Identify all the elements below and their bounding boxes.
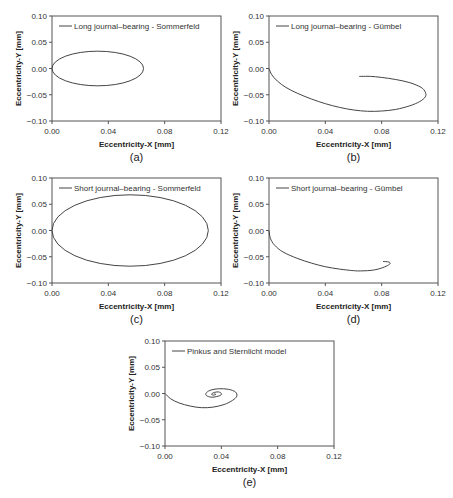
x-axis-label: Eccentricity-X [mm]: [99, 302, 174, 311]
y-tick-label: 0.00: [248, 227, 264, 236]
panel-caption: (c): [130, 313, 143, 325]
y-tick-label: 0.05: [248, 38, 264, 47]
y-tick-label: 0.05: [248, 200, 264, 209]
x-axis-label: Eccentricity-X [mm]: [316, 302, 391, 311]
y-tick-label: 0.00: [248, 65, 264, 74]
chart-svg: 0.100.050.00−0.05−0.100.000.040.080.12Ec…: [0, 0, 236, 165]
x-tick-label: 0.08: [157, 127, 173, 136]
y-tick-label: 0.10: [144, 337, 160, 346]
svg-text:Pinkus and Sternlicht model: Pinkus and Sternlicht model: [187, 347, 286, 356]
plot-area: [52, 16, 221, 121]
y-tick-label: 0.10: [248, 12, 264, 21]
x-tick-label: 0.08: [374, 127, 390, 136]
data-series-line: [52, 195, 208, 266]
y-tick-label: 0.05: [31, 200, 47, 209]
x-tick-label: 0.00: [261, 127, 277, 136]
x-tick-label: 0.12: [430, 289, 446, 298]
x-tick-label: 0.04: [214, 452, 230, 461]
y-tick-label: −0.05: [244, 91, 265, 100]
chart-panel-c: 0.100.050.00−0.05−0.100.000.040.080.12Ec…: [0, 162, 236, 331]
plot-area: [52, 178, 221, 283]
x-axis-label: Eccentricity-X [mm]: [316, 140, 391, 149]
svg-text:Long journal–bearing - Gümbel: Long journal–bearing - Gümbel: [291, 22, 402, 31]
x-tick-label: 0.04: [101, 127, 117, 136]
y-axis-label: Eccentricity-Y [mm]: [14, 193, 23, 268]
y-tick-label: 0.10: [31, 174, 47, 183]
panel-caption: (e): [243, 476, 256, 488]
plot-area: [269, 178, 438, 283]
x-tick-label: 0.04: [318, 127, 334, 136]
panel-caption: (d): [347, 313, 360, 325]
data-series-line: [165, 389, 237, 408]
data-series-line: [269, 69, 426, 112]
x-tick-label: 0.08: [157, 289, 173, 298]
chart-panel-a: 0.100.050.00−0.05−0.100.000.040.080.12Ec…: [0, 0, 236, 169]
chart-svg: 0.100.050.00−0.05−0.100.000.040.080.12Ec…: [217, 162, 453, 327]
data-series-line: [269, 231, 390, 271]
chart-panel-e: 0.100.050.00−0.05−0.100.000.040.080.12Ec…: [113, 325, 349, 494]
x-tick-label: 0.00: [157, 452, 173, 461]
legend: Long journal–bearing - Gümbel: [276, 22, 402, 31]
y-tick-label: −0.05: [140, 416, 161, 425]
y-tick-label: −0.10: [27, 279, 48, 288]
x-tick-label: 0.08: [374, 289, 390, 298]
x-tick-label: 0.00: [44, 127, 60, 136]
x-axis-label: Eccentricity-X [mm]: [99, 140, 174, 149]
y-tick-label: −0.05: [27, 253, 48, 262]
y-tick-label: 0.00: [31, 65, 47, 74]
chart-svg: 0.100.050.00−0.05−0.100.000.040.080.12Ec…: [217, 0, 453, 165]
y-tick-label: 0.00: [144, 390, 160, 399]
legend: Short journal–bearing - Gümbel: [276, 184, 403, 193]
legend: Short journal–bearing - Sommerfeld: [59, 184, 201, 193]
y-tick-label: 0.05: [144, 363, 160, 372]
y-tick-label: −0.05: [27, 91, 48, 100]
legend: Pinkus and Sternlicht model: [172, 347, 286, 356]
x-tick-label: 0.12: [430, 127, 446, 136]
chart-panel-b: 0.100.050.00−0.05−0.100.000.040.080.12Ec…: [217, 0, 453, 169]
x-axis-label: Eccentricity-X [mm]: [212, 465, 287, 474]
chart-svg: 0.100.050.00−0.05−0.100.000.040.080.12Ec…: [113, 325, 349, 490]
chart-svg: 0.100.050.00−0.05−0.100.000.040.080.12Ec…: [0, 162, 236, 327]
x-tick-label: 0.12: [326, 452, 342, 461]
data-series-line: [52, 51, 144, 86]
y-tick-label: −0.05: [244, 253, 265, 262]
x-tick-label: 0.04: [101, 289, 117, 298]
y-tick-label: −0.10: [244, 279, 265, 288]
y-tick-label: 0.05: [31, 38, 47, 47]
y-tick-label: −0.10: [27, 117, 48, 126]
x-tick-label: 0.00: [44, 289, 60, 298]
y-axis-label: Eccentricity-Y [mm]: [231, 31, 240, 106]
svg-text:Long journal–bearing - Sommerf: Long journal–bearing - Sommerfeld: [74, 22, 199, 31]
x-tick-label: 0.08: [270, 452, 286, 461]
y-axis-label: Eccentricity-Y [mm]: [14, 31, 23, 106]
x-tick-label: 0.04: [318, 289, 334, 298]
plot-area: [165, 341, 334, 446]
y-tick-label: −0.10: [140, 442, 161, 451]
chart-panel-d: 0.100.050.00−0.05−0.100.000.040.080.12Ec…: [217, 162, 453, 331]
legend: Long journal–bearing - Sommerfeld: [59, 22, 199, 31]
svg-text:Short journal–bearing - Sommer: Short journal–bearing - Sommerfeld: [74, 184, 201, 193]
svg-text:Short journal–bearing - Gümbel: Short journal–bearing - Gümbel: [291, 184, 403, 193]
y-axis-label: Eccentricity-Y [mm]: [231, 193, 240, 268]
x-tick-label: 0.00: [261, 289, 277, 298]
y-tick-label: −0.10: [244, 117, 265, 126]
y-tick-label: 0.00: [31, 227, 47, 236]
y-axis-label: Eccentricity-Y [mm]: [127, 356, 136, 431]
y-tick-label: 0.10: [248, 174, 264, 183]
y-tick-label: 0.10: [31, 12, 47, 21]
